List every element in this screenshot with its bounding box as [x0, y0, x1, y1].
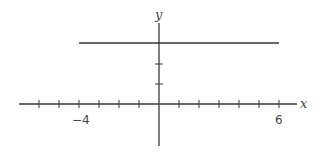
y-axis-label: y: [154, 7, 163, 22]
x-tick-label-neg4: −4: [72, 113, 90, 127]
x-tick-label-6: 6: [275, 113, 283, 127]
x-axis-label: x: [300, 96, 308, 111]
coordinate-plane: y x −4 6: [0, 0, 320, 157]
